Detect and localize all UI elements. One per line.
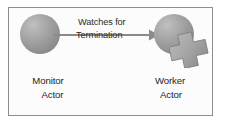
- edge-label-line-2: Termination: [76, 30, 122, 42]
- diagram-root: Watches for Termination: [0, 0, 225, 126]
- edge-label-line-1: Watches for: [78, 17, 126, 29]
- worker-actor-caption: Worker Actor: [131, 74, 209, 102]
- monitor-actor-caption: Monitor Actor: [9, 74, 87, 102]
- monitor-caption-line-1: Monitor: [9, 74, 87, 88]
- puzzle-cross-glyph: [169, 32, 209, 68]
- diagram-frame: Watches for Termination: [8, 7, 213, 116]
- monitor-caption-line-2: Actor: [9, 88, 87, 102]
- worker-caption-line-2: Actor: [131, 88, 209, 102]
- worker-caption-line-1: Worker: [131, 74, 209, 88]
- diagram-canvas: Watches for Termination: [9, 8, 212, 115]
- puzzle-cross-icon: [169, 32, 209, 68]
